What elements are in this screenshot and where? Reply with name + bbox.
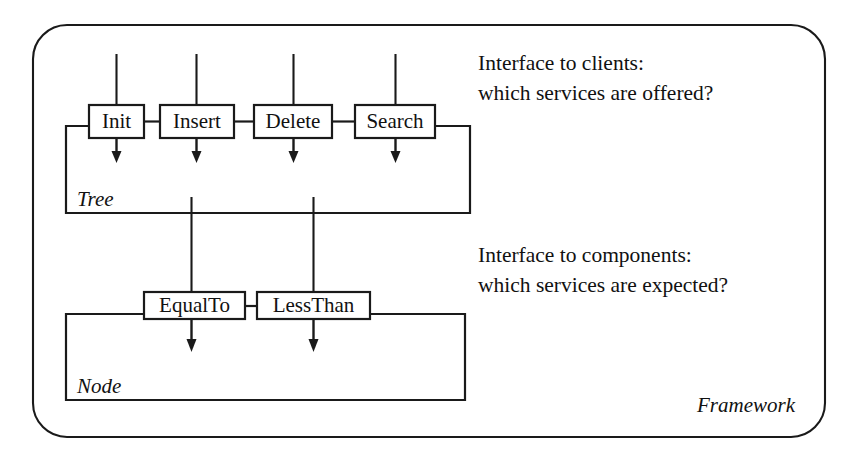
framework-diagram: Init Insert Delete Search Tree	[0, 0, 858, 453]
annotation-clients-line1: Interface to clients:	[478, 51, 644, 75]
tree-arrow-search	[391, 138, 401, 163]
operation-label-search: Search	[366, 109, 424, 133]
tree-arrow-delete	[289, 138, 299, 163]
annotation-clients-line2: which services are offered?	[478, 81, 713, 105]
annotation-components-line1: Interface to components:	[478, 243, 692, 267]
tree-container-label: Tree	[77, 187, 114, 211]
framework-label: Framework	[696, 393, 796, 417]
diagram-canvas: Init Insert Delete Search Tree	[0, 0, 858, 453]
node-arrow-equalto	[187, 319, 197, 352]
operation-label-insert: Insert	[173, 109, 221, 133]
node-container-outline	[66, 314, 465, 400]
node-container-label: Node	[76, 374, 121, 398]
operation-label-equalto: EqualTo	[159, 293, 230, 317]
operation-label-init: Init	[102, 109, 131, 133]
node-arrow-lessthan	[309, 319, 319, 352]
annotation-components-line2: which services are expected?	[478, 273, 728, 297]
tree-arrow-init	[112, 138, 122, 163]
tree-arrow-insert	[192, 138, 202, 163]
operation-label-delete: Delete	[266, 109, 321, 133]
operation-label-lessthan: LessThan	[273, 293, 355, 317]
